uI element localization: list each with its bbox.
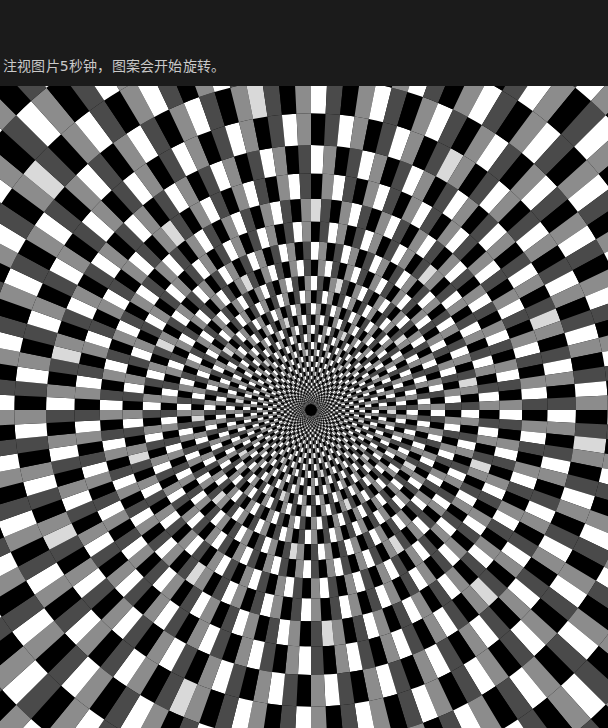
caption-text: 注视图片5秒钟，图案会开始旋转。 [3, 57, 225, 75]
optical-illusion-image [0, 86, 608, 728]
page: 注视图片5秒钟，图案会开始旋转。 [0, 0, 608, 728]
rotating-pattern-canvas [0, 86, 608, 728]
